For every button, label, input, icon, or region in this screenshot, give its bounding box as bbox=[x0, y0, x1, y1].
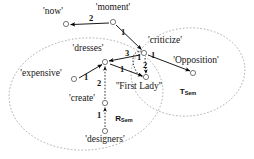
node-label-moment: 'moment' bbox=[96, 3, 131, 13]
edge-weight-moment-criticize: 1 bbox=[121, 28, 125, 37]
edge-dresses-firstlady bbox=[110, 64, 143, 76]
node-label-opposition: 'Opposition' bbox=[173, 56, 219, 66]
edge-weight-dresses-firstlady: 1 bbox=[120, 65, 124, 74]
edge-weight-designers-create: 1 bbox=[97, 111, 101, 120]
node-label-expensive: 'expensive' bbox=[20, 69, 61, 79]
node-dresses[interactable] bbox=[102, 59, 107, 64]
node-label-designers: 'designers' bbox=[85, 135, 124, 145]
edge-weight-criticize-firstlady: 2 bbox=[143, 61, 147, 70]
region-label-rsem-sub: Sem bbox=[121, 117, 133, 123]
edge-moment-now bbox=[71, 23, 110, 25]
node-now[interactable] bbox=[63, 21, 68, 26]
graph-svg bbox=[0, 0, 254, 159]
edge-weight-criticize-opposition: 1 bbox=[151, 51, 155, 60]
node-moment[interactable] bbox=[110, 19, 115, 24]
edge-weight-expensive-dresses: 1 bbox=[84, 73, 88, 82]
edge-moment-criticize bbox=[116, 25, 142, 50]
region-label-tsem-sub: Sem bbox=[185, 90, 197, 96]
node-label-dresses: 'dresses' bbox=[73, 44, 104, 54]
node-firstlady[interactable] bbox=[143, 74, 148, 79]
edge-weight-criticize-dresses: 3 bbox=[125, 49, 129, 58]
node-expensive[interactable] bbox=[71, 76, 76, 81]
edge-weight-moment-now: 2 bbox=[89, 14, 93, 23]
node-label-criticize: 'criticize' bbox=[148, 36, 182, 46]
edge-weight-criticize-selfloop: 1 bbox=[137, 53, 141, 62]
edge-expensive-dresses bbox=[79, 65, 102, 79]
node-opposition[interactable] bbox=[190, 70, 195, 75]
region-label-tsem: TSem bbox=[180, 88, 197, 96]
region-ellipse-tsem bbox=[127, 22, 250, 121]
node-designers[interactable] bbox=[102, 128, 107, 133]
region-label-rsem-text: R bbox=[115, 114, 121, 123]
node-label-now: 'now' bbox=[43, 7, 63, 17]
figure-canvas: 'now' 'moment' 'criticize' 'Opposition' … bbox=[0, 0, 254, 159]
node-criticize[interactable] bbox=[141, 50, 146, 55]
edge-weight-create-dresses: 2 bbox=[97, 79, 101, 88]
region-label-rsem: RSem bbox=[115, 115, 132, 123]
node-label-create: 'create' bbox=[69, 94, 95, 104]
node-label-firstlady: ''First Lady'' bbox=[116, 82, 162, 92]
node-create[interactable] bbox=[102, 100, 107, 105]
